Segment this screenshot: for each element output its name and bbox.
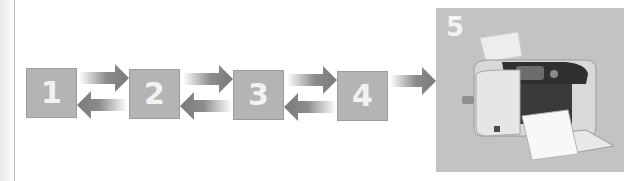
margin-rule	[14, 0, 15, 181]
step-label: 1	[41, 78, 62, 108]
step-box-4: 4	[337, 71, 388, 121]
page-edge-strip	[0, 0, 13, 181]
arrow-left-icon	[180, 92, 232, 120]
step-box-3: 3	[233, 70, 284, 120]
step-box-2: 2	[129, 69, 180, 119]
arrow-right-icon	[79, 64, 129, 92]
step-label: 2	[144, 79, 165, 109]
arrow-left-icon	[284, 93, 336, 121]
arrow-right-icon	[183, 65, 233, 93]
printer-panel: 5	[436, 8, 624, 172]
step-label: 3	[248, 80, 269, 110]
arrow-left-icon	[77, 91, 127, 119]
step-label: 4	[352, 81, 373, 111]
printer-icon	[436, 8, 624, 172]
arrow-right-icon	[287, 66, 337, 94]
step-box-1: 1	[26, 68, 77, 118]
arrow-right-icon	[390, 67, 436, 95]
